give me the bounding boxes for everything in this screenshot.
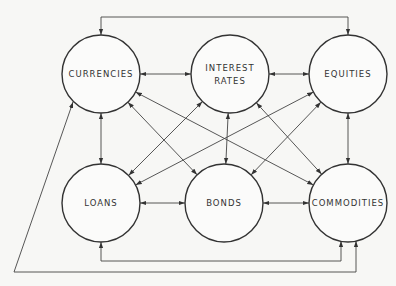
node-currencies-label: CURRENCIES [69,69,134,79]
node-bonds-label: BONDS [206,198,242,208]
node-interest_rates-circle [191,35,269,113]
node-commodities: COMMODITIES [309,164,387,242]
edge-interest_rates-bonds [226,113,228,164]
edge-interest_rates-loans [129,102,203,176]
node-interest_rates-label: RATES [214,76,246,86]
node-commodities-label: COMMODITIES [312,198,385,208]
node-interest_rates: INTERESTRATES [191,35,269,113]
node-interest_rates-label: INTEREST [205,63,254,73]
node-bonds: BONDS [185,164,263,242]
edge-currencies-bonds [128,102,197,175]
edges-layer [14,17,356,272]
edge-equities-bonds [251,102,321,175]
edge-interest_rates-commodities [256,103,321,174]
node-equities: EQUITIES [309,35,387,113]
edge-loans-commodities [101,241,341,261]
node-loans: LOANS [62,164,140,242]
node-currencies: CURRENCIES [62,35,140,113]
node-equities-label: EQUITIES [324,69,371,79]
edge-currencies-equities [101,17,348,35]
market-interconnection-diagram: CURRENCIESINTERESTRATESEQUITIESLOANSBOND… [0,0,396,286]
node-loans-label: LOANS [84,198,118,208]
